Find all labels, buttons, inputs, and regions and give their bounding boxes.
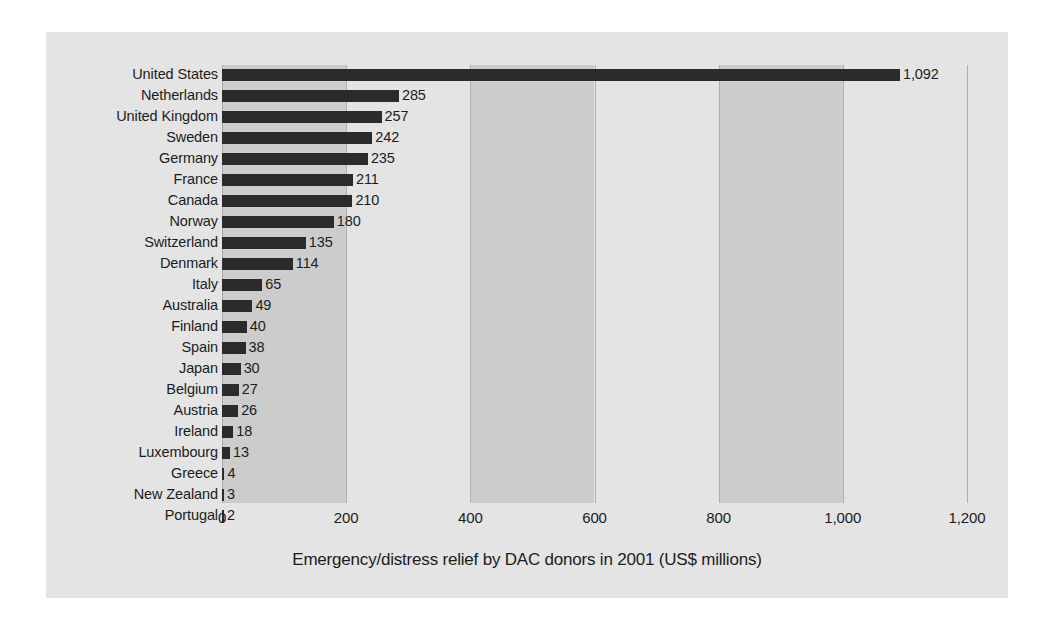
bar [222,384,239,396]
bar-value-label: 65 [265,275,281,296]
bar-row: Italy65 [46,275,1008,296]
x-tick-label: 200 [334,509,359,526]
bar-row: Greece4 [46,464,1008,485]
bar [222,132,372,144]
bar [222,174,353,186]
bar-row: Germany235 [46,149,1008,170]
category-label: Australia [162,296,218,317]
bar [222,321,247,333]
category-label: Germany [159,149,218,170]
bar-row: Belgium27 [46,380,1008,401]
bar-value-label: 135 [309,233,333,254]
category-label: Denmark [160,254,218,275]
category-label: Belgium [166,380,218,401]
bar [222,216,334,228]
bar-value-label: 242 [375,128,399,149]
bar [222,153,368,165]
bar [222,300,252,312]
bar-row: Netherlands285 [46,86,1008,107]
bar-row: Australia49 [46,296,1008,317]
bar [222,258,293,270]
bar-row: Spain38 [46,338,1008,359]
bar [222,489,224,501]
category-label: Sweden [166,128,218,149]
bar-row: Switzerland135 [46,233,1008,254]
axis-caption: Emergency/distress relief by DAC donors … [46,550,1008,570]
bar-row: Canada210 [46,191,1008,212]
category-label: Canada [168,191,218,212]
bar-value-label: 27 [242,380,258,401]
figure-card: United States1,092Netherlands285United K… [46,32,1008,598]
category-label: United States [132,65,218,86]
x-tick-label: 400 [458,509,483,526]
bar [222,363,241,375]
category-label: Finland [171,317,218,338]
bar-rows: United States1,092Netherlands285United K… [46,32,1008,470]
category-label: Austria [174,401,218,422]
x-tick-label: 600 [582,509,607,526]
bar-value-label: 114 [296,254,319,275]
bar-value-label: 4 [227,464,235,485]
bar-value-label: 26 [241,401,257,422]
x-tick-label: 0 [218,509,226,526]
category-label: Spain [181,338,218,359]
bar-value-label: 180 [337,212,361,233]
bar-value-label: 49 [255,296,271,317]
bar-row: Ireland18 [46,422,1008,443]
bar [222,405,238,417]
category-label: Ireland [174,422,218,443]
bar-value-label: 210 [355,191,379,212]
category-label: Switzerland [144,233,218,254]
bar-value-label: 13 [233,443,249,464]
bar-value-label: 30 [244,359,260,380]
bar-row: Sweden242 [46,128,1008,149]
bar [222,111,382,123]
category-label: Luxembourg [138,443,218,464]
bar-row: Japan30 [46,359,1008,380]
bar-row: Austria26 [46,401,1008,422]
bar-value-label: 40 [250,317,266,338]
bar-row: United Kingdom257 [46,107,1008,128]
category-label: France [173,170,218,191]
x-tick-label: 1,200 [948,509,985,526]
bar [222,237,306,249]
bar [222,279,262,291]
category-label: Italy [192,275,218,296]
bar-value-label: 285 [402,86,426,107]
bar [222,90,399,102]
bar-value-label: 1,092 [903,65,939,86]
bar-value-label: 211 [356,170,379,191]
category-label: United Kingdom [116,107,218,128]
category-label: Netherlands [141,86,218,107]
x-tick-label: 1,000 [824,509,861,526]
bar-value-label: 235 [371,149,395,170]
x-tick-label: 800 [706,509,731,526]
bar [222,195,352,207]
bar-value-label: 18 [236,422,252,443]
bar-row: Luxembourg13 [46,443,1008,464]
bar-row: Finland40 [46,317,1008,338]
bar-row: Denmark114 [46,254,1008,275]
bar [222,426,233,438]
category-label: Japan [179,359,218,380]
bar-row: Norway180 [46,212,1008,233]
bar-value-label: 257 [385,107,409,128]
category-label: Norway [169,212,218,233]
bar [222,69,900,81]
bar-row: United States1,092 [46,65,1008,86]
x-axis: 02004006008001,0001,200 [46,503,1008,537]
bar [222,447,230,459]
category-label: Greece [171,464,218,485]
bar [222,468,224,480]
bar-row: France211 [46,170,1008,191]
bar-value-label: 38 [249,338,265,359]
bar [222,342,246,354]
